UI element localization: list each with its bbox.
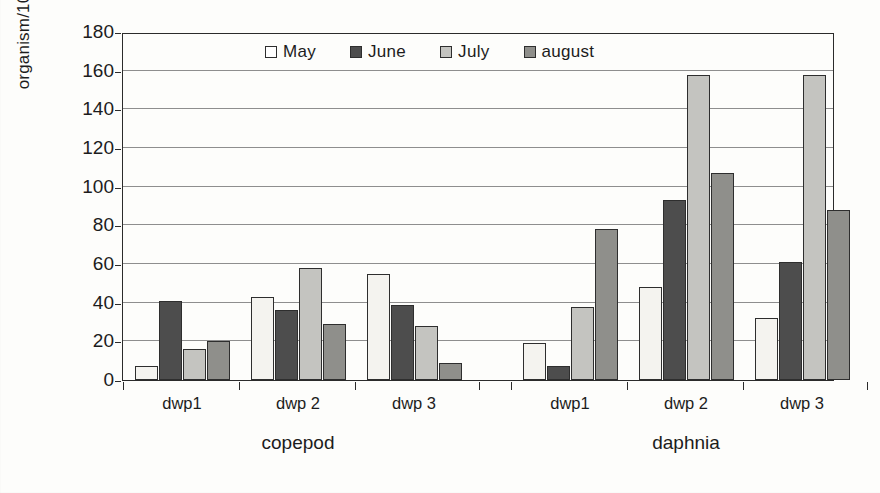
legend-entry-july: July xyxy=(440,42,489,62)
chart-legend: MayJuneJulyaugust xyxy=(265,42,594,62)
bar-august-4 xyxy=(711,173,734,380)
y-tick-label-0: 0 xyxy=(54,369,114,391)
x-category-label-0: dwp1 xyxy=(162,394,201,413)
y-tick-mark-140 xyxy=(115,110,121,111)
x-tick-mark-4 xyxy=(627,382,628,390)
x-tick-mark-7 xyxy=(867,382,868,390)
y-tick-mark-120 xyxy=(115,149,121,150)
bar-august-5 xyxy=(827,210,850,380)
bar-july-2 xyxy=(415,326,438,380)
bar-may-1 xyxy=(251,297,274,380)
legend-entry-may: May xyxy=(265,42,316,62)
x-tick-mark-1 xyxy=(239,382,240,390)
legend-label-june: June xyxy=(368,42,406,62)
legend-label-july: July xyxy=(458,42,489,62)
legend-label-may: May xyxy=(283,42,316,62)
bar-july-0 xyxy=(183,349,206,380)
x-tick-mark-3 xyxy=(511,382,512,390)
y-tick-label-120: 120 xyxy=(54,137,114,159)
bar-may-2 xyxy=(367,274,390,380)
legend-swatch-icon-june xyxy=(350,46,362,58)
x-tick-mark-2 xyxy=(355,382,356,390)
x-tick-mark-6 xyxy=(479,382,480,390)
bar-may-4 xyxy=(639,287,662,380)
legend-swatch-icon-may xyxy=(265,46,277,58)
y-tick-mark-160 xyxy=(115,72,121,73)
y-tick-mark-60 xyxy=(115,265,121,266)
bar-june-4 xyxy=(663,200,686,380)
bars-layer xyxy=(123,34,833,380)
legend-label-august: august xyxy=(542,42,595,62)
bar-july-4 xyxy=(687,75,710,380)
y-tick-mark-100 xyxy=(115,188,121,189)
x-category-label-5: dwp 3 xyxy=(780,394,824,413)
bar-june-0 xyxy=(159,301,182,380)
y-tick-label-140: 140 xyxy=(54,98,114,120)
bar-june-1 xyxy=(275,310,298,380)
y-tick-label-160: 160 xyxy=(54,60,114,82)
bar-august-1 xyxy=(323,324,346,380)
x-category-label-1: dwp 2 xyxy=(276,394,320,413)
y-tick-mark-180 xyxy=(115,33,121,34)
x-tick-mark-0 xyxy=(123,382,124,390)
y-tick-label-60: 60 xyxy=(54,253,114,275)
y-tick-label-40: 40 xyxy=(54,292,114,314)
bar-july-1 xyxy=(299,268,322,380)
legend-swatch-icon-july xyxy=(440,46,452,58)
y-tick-label-80: 80 xyxy=(54,214,114,236)
y-tick-mark-20 xyxy=(115,342,121,343)
y-tick-label-100: 100 xyxy=(54,176,114,198)
bar-june-3 xyxy=(547,366,570,380)
y-axis-title: organism/100 ml xyxy=(14,0,44,140)
bar-august-0 xyxy=(207,341,230,380)
bar-july-5 xyxy=(803,75,826,380)
y-tick-label-20: 20 xyxy=(54,330,114,352)
legend-swatch-icon-august xyxy=(524,46,536,58)
plot-area xyxy=(122,33,834,381)
chart-screenshot: organism/100 ml 020406080100120140160180… xyxy=(0,0,880,493)
y-tick-mark-40 xyxy=(115,304,121,305)
x-tick-mark-5 xyxy=(743,382,744,390)
y-tick-mark-0 xyxy=(115,381,121,382)
legend-entry-august: august xyxy=(524,42,595,62)
x-category-label-2: dwp 3 xyxy=(392,394,436,413)
y-tick-mark-80 xyxy=(115,226,121,227)
x-section-label-copepod: copepod xyxy=(262,432,335,454)
bar-may-3 xyxy=(523,343,546,380)
bar-may-0 xyxy=(135,366,158,380)
bar-august-3 xyxy=(595,229,618,380)
bar-august-2 xyxy=(439,363,462,380)
x-category-label-3: dwp1 xyxy=(550,394,589,413)
x-category-label-4: dwp 2 xyxy=(664,394,708,413)
bar-june-2 xyxy=(391,305,414,380)
x-section-label-daphnia: daphnia xyxy=(652,432,720,454)
bar-may-5 xyxy=(755,318,778,380)
y-tick-label-180: 180 xyxy=(54,21,114,43)
bar-june-5 xyxy=(779,262,802,380)
bar-july-3 xyxy=(571,307,594,380)
legend-entry-june: June xyxy=(350,42,406,62)
